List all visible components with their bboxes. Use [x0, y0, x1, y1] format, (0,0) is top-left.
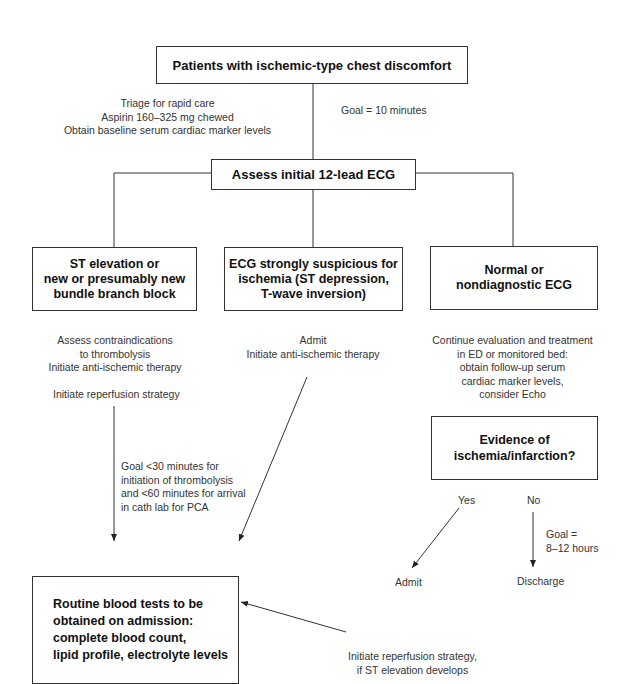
ecg-suspicious-box: ECG strongly suspicious for ischemia (ST… [224, 247, 403, 311]
yes-label: Yes [458, 494, 475, 508]
routine-blood-tests-box: Routine blood tests to be obtained on ad… [32, 576, 239, 684]
discharge-goal-note: Goal = 8–12 hours [546, 528, 599, 555]
admit-label: Admit [395, 576, 422, 590]
goal-ecg-note: Goal = 10 minutes [341, 104, 427, 118]
reperfusion-if-st-note: Initiate reperfusion strategy, if ST ele… [345, 650, 480, 677]
normal-ecg-notes: Continue evaluation and treatment in ED … [425, 334, 600, 402]
reperfusion-strategy-note: Initiate reperfusion strategy [53, 388, 180, 402]
evidence-box: Evidence of ischemia/infarction? [431, 416, 598, 480]
discharge-label: Discharge [517, 575, 564, 589]
triage-notes: Triage for rapid care Aspirin 160–325 mg… [55, 97, 280, 138]
start-box: Patients with ischemic-type chest discom… [156, 46, 468, 84]
st-elevation-notes: Assess contraindications to thrombolysis… [40, 334, 190, 375]
thrombolysis-goal-note: Goal <30 minutes for initiation of throm… [121, 460, 246, 514]
st-elevation-box: ST elevation or new or presumably new bu… [32, 247, 197, 311]
no-label: No [527, 494, 540, 508]
ecg-box: Assess initial 12-lead ECG [211, 159, 416, 190]
normal-ecg-box: Normal or nondiagnostic ECG [430, 246, 598, 310]
ecg-suspicious-notes: Admit Initiate anti-ischemic therapy [233, 334, 393, 361]
